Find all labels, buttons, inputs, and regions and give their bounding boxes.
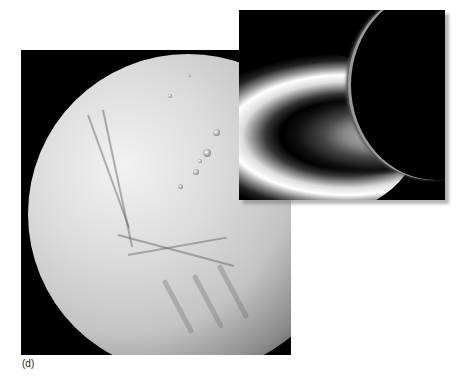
crater bbox=[168, 94, 172, 98]
crater bbox=[178, 184, 183, 189]
crater bbox=[193, 169, 199, 175]
surface-fracture bbox=[102, 110, 133, 247]
tiger-stripe bbox=[162, 279, 195, 334]
crater bbox=[188, 74, 191, 77]
crater bbox=[213, 129, 220, 136]
panel-label: (d) bbox=[22, 358, 34, 369]
surface-fracture bbox=[128, 237, 227, 256]
tiger-stripe bbox=[217, 264, 250, 319]
inset-plume-image bbox=[239, 10, 445, 200]
crater bbox=[203, 149, 211, 157]
tiger-stripe bbox=[192, 274, 225, 329]
crater bbox=[198, 159, 202, 163]
